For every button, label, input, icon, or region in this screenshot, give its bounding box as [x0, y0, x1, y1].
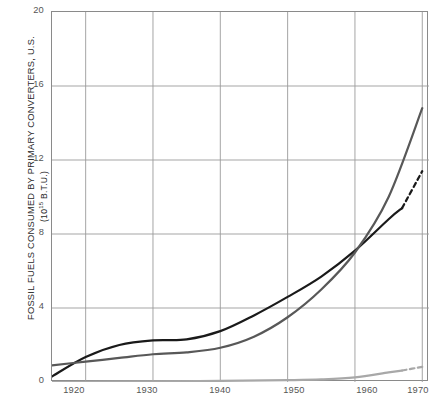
- gridlines: [52, 12, 429, 382]
- data-series-layer: [52, 108, 422, 382]
- y-tick-label-4: 4: [22, 301, 44, 311]
- y-axis-units-exponent: 15: [38, 202, 44, 209]
- y-axis-label-group: FOSSIL FUELS CONSUMED BY PRIMARY CONVERT…: [0, 0, 46, 381]
- y-axis-units-suffix: B.T.U.): [39, 171, 49, 202]
- series-line-other: [52, 371, 402, 382]
- x-tick-label-1950: 1950: [274, 385, 314, 395]
- x-tick-label-1930: 1930: [127, 385, 167, 395]
- chart-canvas: [52, 12, 429, 382]
- chart-figure: FOSSIL FUELS CONSUMED BY PRIMARY CONVERT…: [0, 0, 438, 411]
- y-tick-label-0: 0: [22, 375, 44, 385]
- series-line-dashed-coal: [402, 171, 422, 208]
- series-line-dashed-other: [402, 367, 422, 371]
- x-tick-label-1960: 1960: [347, 385, 387, 395]
- series-line-coal: [52, 208, 402, 376]
- y-axis-units-label: (1015 B.T.U.): [38, 171, 49, 222]
- series-line-petroleum-and-natural-gas: [52, 108, 422, 365]
- y-axis-units-prefix: (10: [39, 209, 49, 222]
- x-tick-label-1920: 1920: [54, 385, 94, 395]
- plot-area: [51, 11, 428, 381]
- y-tick-label-8: 8: [22, 227, 44, 237]
- y-tick-label-12: 12: [22, 153, 44, 163]
- x-tick-label-1940: 1940: [200, 385, 240, 395]
- y-tick-label-20: 20: [22, 5, 44, 15]
- y-tick-label-16: 16: [22, 79, 44, 89]
- x-tick-label-1970: 1970: [398, 385, 438, 395]
